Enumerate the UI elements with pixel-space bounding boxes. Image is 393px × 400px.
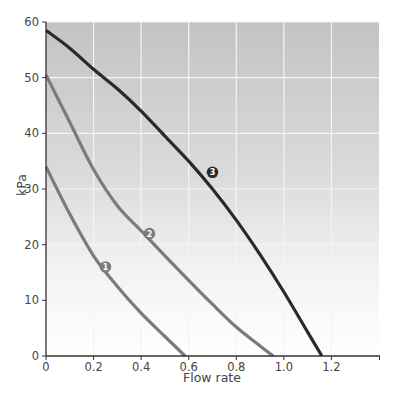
x-tick-label: 0.2: [84, 360, 102, 374]
curve-marker-3: 3: [207, 167, 219, 179]
x-axis-title: Flow rate: [183, 370, 241, 385]
x-tick-label: 0.4: [132, 360, 150, 374]
marker-number: 3: [210, 168, 216, 177]
x-tick-label: 1.0: [275, 360, 293, 374]
y-tick-label: 60: [24, 15, 39, 29]
y-axis-title: kPa: [14, 174, 29, 196]
x-tick-label: 0: [42, 360, 49, 374]
marker-number: 1: [103, 263, 109, 272]
curve-marker-1: 1: [100, 261, 112, 273]
curve-marker-2: 2: [144, 228, 156, 240]
y-tick-label: 0: [32, 349, 39, 363]
chart: 00.20.40.60.81.01.20102030405060 123 Flo…: [0, 0, 393, 400]
y-tick-label: 10: [24, 293, 39, 307]
chart-svg: 00.20.40.60.81.01.20102030405060 123 Flo…: [0, 0, 393, 400]
y-tick-label: 20: [24, 238, 39, 252]
y-tick-label: 50: [24, 71, 39, 85]
marker-number: 2: [147, 230, 153, 239]
x-tick-label: 1.2: [322, 360, 340, 374]
y-tick-label: 40: [24, 126, 39, 140]
